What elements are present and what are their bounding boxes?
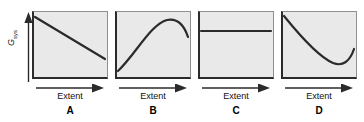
plot-panel-a [32,11,108,79]
panel-letter-c: C [198,105,274,116]
panel-letter-d: D [281,105,357,116]
x-axis-group-d: Extent D [281,84,357,120]
plot-panel-c [198,11,274,79]
y-axis-label-subscript: sys [12,30,18,39]
x-axis-label-d: Extent [281,91,357,101]
plot-panel-d [281,11,357,79]
curve-a [32,11,108,79]
x-axis-group-c: Extent C [198,84,274,120]
x-axis-label-b: Extent [115,91,191,101]
curve-d [281,11,357,79]
curve-b [115,11,191,79]
plot-panel-b [115,11,191,79]
x-axis-label-c: Extent [198,91,274,101]
y-axis-group: Gsys [2,12,34,82]
y-axis-label-main: G [6,39,16,46]
y-axis-label: Gsys [6,21,18,55]
x-axis-label-a: Extent [32,91,108,101]
curve-c [198,11,274,79]
panel-letter-a: A [32,105,108,116]
x-axis-group-b: Extent B [115,84,191,120]
figure-panel-group: Gsys Extent A Extent B [0,0,364,122]
panel-letter-b: B [115,105,191,116]
x-axis-group-a: Extent A [32,84,108,120]
